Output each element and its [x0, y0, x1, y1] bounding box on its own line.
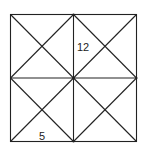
bottom-mid-dot	[72, 140, 74, 142]
top-mid-dot	[72, 13, 74, 15]
label-12: 12	[77, 41, 89, 53]
square-diagram: 12 5	[0, 0, 144, 155]
center-dot	[72, 76, 75, 79]
right-mid-dot	[135, 77, 137, 79]
label-5: 5	[39, 130, 45, 142]
